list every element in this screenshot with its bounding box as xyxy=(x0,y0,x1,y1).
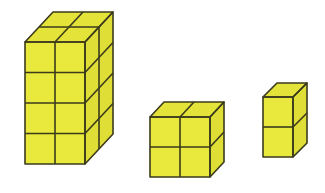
medium-cube xyxy=(150,102,224,177)
tall-prism xyxy=(25,12,113,164)
unit-cube-prisms-figure xyxy=(0,0,325,193)
small-prism xyxy=(263,83,307,157)
